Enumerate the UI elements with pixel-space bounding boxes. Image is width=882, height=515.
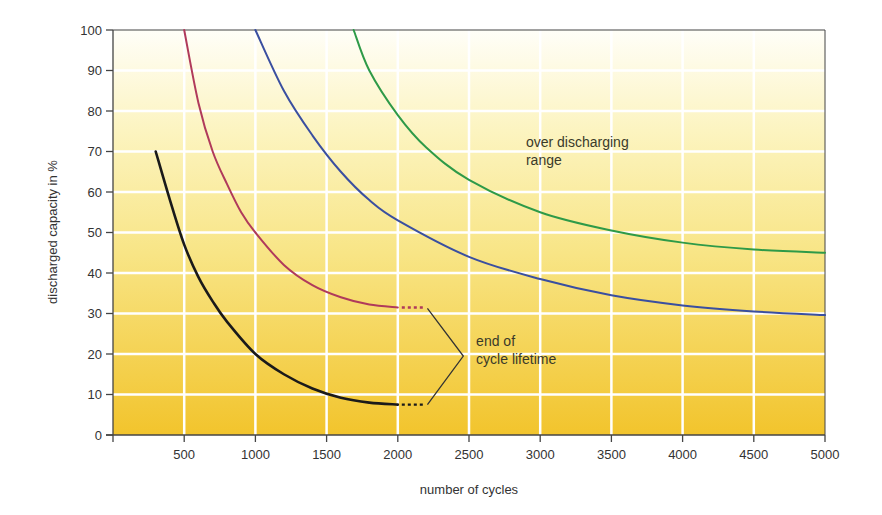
y-tick-label: 90 [88, 63, 102, 78]
y-tick-label: 40 [88, 266, 102, 281]
y-axis-ticks: 0102030405060708090100 [80, 23, 113, 443]
x-tick-label: 1500 [312, 447, 341, 462]
x-tick-label: 1000 [241, 447, 270, 462]
x-tick-label: 5000 [811, 447, 840, 462]
x-tick-label: 4500 [739, 447, 768, 462]
y-tick-label: 70 [88, 144, 102, 159]
x-axis-title: number of cycles [420, 482, 519, 497]
y-tick-label: 10 [88, 387, 102, 402]
x-tick-label: 3500 [597, 447, 626, 462]
y-tick-label: 20 [88, 347, 102, 362]
y-tick-label: 100 [80, 23, 102, 38]
x-tick-label: 4000 [668, 447, 697, 462]
y-tick-label: 50 [88, 225, 102, 240]
x-tick-label: 500 [173, 447, 195, 462]
battery-cycle-chart: 500100015002000250030003500400045005000 … [0, 0, 882, 515]
y-tick-label: 0 [95, 428, 102, 443]
x-tick-label: 3000 [526, 447, 555, 462]
x-tick-label: 2000 [383, 447, 412, 462]
y-tick-label: 80 [88, 104, 102, 119]
x-tick-label: 2500 [455, 447, 484, 462]
y-axis-title: discharged capacity in % [45, 160, 60, 304]
y-tick-label: 60 [88, 185, 102, 200]
x-axis-ticks: 500100015002000250030003500400045005000 [173, 435, 839, 462]
y-tick-label: 30 [88, 306, 102, 321]
